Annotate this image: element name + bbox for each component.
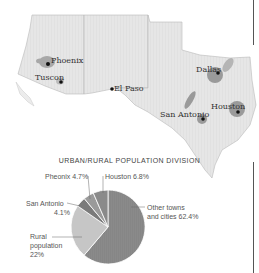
san-antonio-label: San Antonio (160, 110, 209, 119)
el-paso-label: El Paso (114, 84, 144, 93)
pie-label-san-antonio-value: 4.1% (54, 208, 70, 217)
pie-label-rural-line3: 22% (30, 250, 44, 259)
tuscon-label: Tuscon (35, 73, 64, 82)
pie-label-houston: Houston 6.8% (105, 172, 149, 181)
phoenix-dot (46, 62, 50, 66)
pie-label-rural-line2: population (30, 241, 62, 250)
pie-chart-title: URBAN/RURAL POPULATION DIVISION (0, 157, 259, 164)
dallas-label: Dallas (196, 65, 221, 74)
pie-label-rural-line1: Rural (30, 232, 47, 241)
pie-label-phoenix: Pheonix 4.7% (45, 172, 88, 181)
page-edge-line (253, 0, 254, 45)
pie-label-san-antonio-name: San Antonio (26, 199, 64, 208)
pie-label-other-line1: Other towns (147, 203, 185, 212)
new-mexico-region (84, 15, 148, 94)
pie-label-other-line2: and cities 62.4% (147, 212, 198, 221)
arizona-region (18, 15, 84, 94)
phoenix-label: Phoenix (51, 56, 83, 65)
baja-sliver (16, 82, 34, 106)
houston-label: Houston (211, 102, 245, 111)
